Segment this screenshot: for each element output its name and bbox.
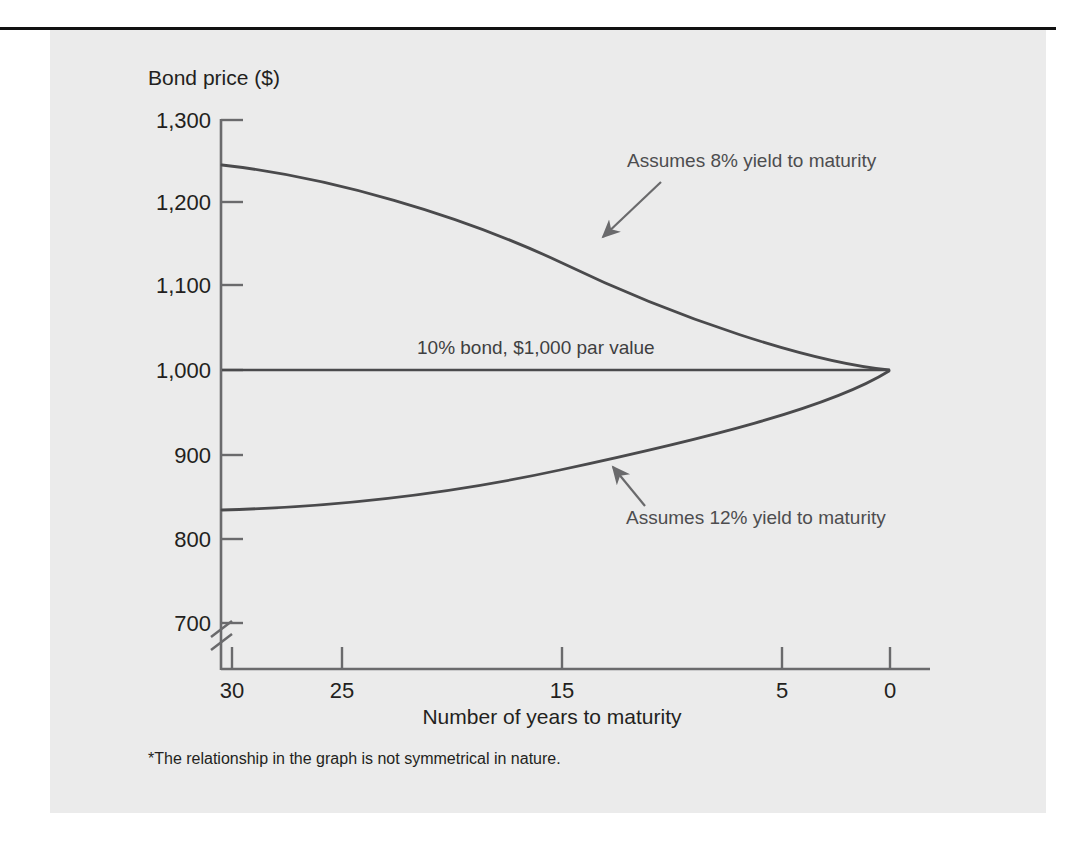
series-line-12-percent-yield xyxy=(222,371,889,510)
figure-root: Bond price ($) 1,300 1,200 1,100 1,000 9… xyxy=(0,0,1081,848)
annotation-label-par-value: 10% bond, $1,000 par value xyxy=(417,337,655,358)
annotation-label-8-percent-yield: Assumes 8% yield to maturity xyxy=(627,150,877,171)
y-tick-label-1300: 1,300 xyxy=(156,108,211,133)
annotation-arrow-12-percent-yield xyxy=(613,467,645,506)
bond-price-chart: Bond price ($) 1,300 1,200 1,100 1,000 9… xyxy=(0,0,1081,848)
y-tick-label-700: 700 xyxy=(174,611,211,636)
y-axis-title: Bond price ($) xyxy=(148,66,280,89)
y-axis-ticks xyxy=(221,120,243,623)
x-tick-label-25: 25 xyxy=(330,678,354,703)
y-tick-label-900: 900 xyxy=(174,443,211,468)
figure-footnote: *The relationship in the graph is not sy… xyxy=(148,750,561,767)
y-tick-label-800: 800 xyxy=(174,527,211,552)
x-tick-label-0: 0 xyxy=(884,678,896,703)
x-tick-label-30: 30 xyxy=(220,678,244,703)
annotation-label-12-percent-yield: Assumes 12% yield to maturity xyxy=(626,507,886,528)
annotation-arrow-8-percent-yield xyxy=(603,182,661,237)
x-axis-ticks xyxy=(232,647,890,669)
x-tick-label-5: 5 xyxy=(776,678,788,703)
y-tick-label-1200: 1,200 xyxy=(156,190,211,215)
x-axis-title: Number of years to maturity xyxy=(422,705,682,728)
y-tick-label-1100: 1,100 xyxy=(156,273,211,298)
y-tick-label-1000: 1,000 xyxy=(156,358,211,383)
x-tick-label-15: 15 xyxy=(550,678,574,703)
